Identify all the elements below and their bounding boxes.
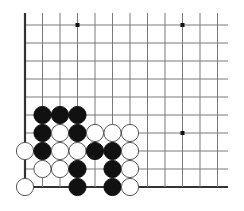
white-stone (104, 124, 121, 141)
go-board-diagram (0, 0, 244, 211)
white-stone (86, 124, 103, 141)
black-stone (69, 178, 86, 195)
white-stone (121, 142, 138, 159)
white-stone (121, 160, 138, 177)
white-stone (16, 178, 33, 195)
white-stone (51, 124, 68, 141)
black-stone (104, 142, 121, 159)
star-point (181, 23, 185, 27)
black-stone (69, 160, 86, 177)
white-stone (51, 160, 68, 177)
white-stone (51, 142, 68, 159)
star-point (76, 23, 80, 27)
star-point (181, 131, 185, 135)
black-stone (34, 124, 51, 141)
black-stone (51, 106, 68, 123)
black-stone (104, 160, 121, 177)
black-stone (86, 142, 103, 159)
black-stone (34, 142, 51, 159)
white-stone (121, 178, 138, 195)
black-stone (69, 106, 86, 123)
white-stone (69, 142, 86, 159)
white-stone (16, 142, 33, 159)
black-stone (69, 124, 86, 141)
white-stone (121, 124, 138, 141)
black-stone (34, 106, 51, 123)
black-stone (104, 178, 121, 195)
stones (16, 106, 138, 195)
white-stone (34, 160, 51, 177)
